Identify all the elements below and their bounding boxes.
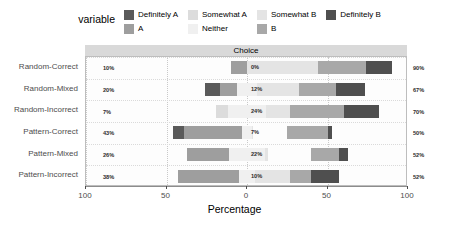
x-tick-label: 50 <box>161 191 170 200</box>
bar-row: 22% <box>86 144 406 166</box>
y-axis-label: Random-Incorrect <box>14 105 78 115</box>
center-percent-label: 24% <box>251 105 262 118</box>
bar-segment[interactable] <box>257 83 299 96</box>
left-percent-label: 7% <box>103 107 111 117</box>
bar-segment[interactable] <box>311 170 338 183</box>
bar-segment[interactable] <box>216 105 227 118</box>
bar-segment[interactable] <box>344 105 379 118</box>
plot-panel: 0%12%24%7%22%10% <box>85 56 407 186</box>
facet-strip: Choice <box>85 45 407 56</box>
legend-label: Somewhat A <box>202 10 247 20</box>
bar-segment[interactable] <box>173 126 184 139</box>
left-percent-label: 20% <box>103 85 114 95</box>
legend-label: Definitely A <box>138 10 178 20</box>
legend-title: variable <box>78 13 115 25</box>
right-percent-label: 50% <box>413 128 424 138</box>
bar-row: 10% <box>86 165 406 186</box>
bar-segment[interactable] <box>187 148 229 161</box>
right-percent-label: 52% <box>413 150 424 160</box>
chart-root: variable Definitely AASomewhat ANeitherS… <box>0 0 469 226</box>
x-tick-mark <box>407 186 408 189</box>
center-percent-label: 22% <box>251 148 262 161</box>
bar-segment[interactable] <box>366 61 392 74</box>
x-axis-title: Percentage <box>0 203 469 215</box>
x-tick-mark <box>327 186 328 189</box>
right-percent-label: 90% <box>413 63 424 73</box>
legend-column: Somewhat BB <box>257 8 316 36</box>
bar-segment[interactable] <box>178 170 239 183</box>
bar-segment[interactable] <box>311 148 338 161</box>
bar-segment[interactable] <box>290 170 311 183</box>
legend-column: Somewhat ANeither <box>188 8 247 36</box>
legend-swatch-icon <box>188 10 198 20</box>
right-percent-label: 70% <box>413 107 424 117</box>
bar-row: 12% <box>86 79 406 101</box>
x-tick-mark <box>166 186 167 189</box>
bar-segment[interactable] <box>220 83 238 96</box>
y-axis-label: Random-Mixed <box>24 84 78 94</box>
y-axis-label: Random-Correct <box>19 62 78 72</box>
bar-segment[interactable] <box>184 126 242 139</box>
legend-label: Neither <box>202 24 228 34</box>
center-percent-label: 0% <box>251 61 259 74</box>
facet-panel-wrap: Choice 0%12%24%7%22%10% <box>85 45 407 186</box>
right-percent-label: 67% <box>413 85 424 95</box>
legend-key-a[interactable]: A <box>124 22 178 35</box>
legend-swatch-icon <box>124 24 134 34</box>
legend-key-b[interactable]: B <box>257 22 316 35</box>
legend-swatch-icon <box>257 10 267 20</box>
legend-key-somewhat-b[interactable]: Somewhat B <box>257 8 316 21</box>
chart-legend: variable Definitely AASomewhat ANeitherS… <box>0 8 469 42</box>
bar-segment[interactable] <box>205 83 219 96</box>
bar-segment[interactable] <box>336 83 365 96</box>
legend-label: Definitely B <box>340 10 380 20</box>
bar-row: 24% <box>86 100 406 122</box>
x-tick-label: 0 <box>244 191 248 200</box>
legend-label: A <box>138 24 143 34</box>
bar-segment[interactable] <box>287 126 327 139</box>
y-axis-labels: Random-CorrectRandom-MixedRandom-Incorre… <box>0 56 82 186</box>
x-tick-mark <box>246 186 247 189</box>
y-axis-label: Pattern-Incorrect <box>18 170 78 180</box>
legend-key-neither[interactable]: Neither <box>188 22 247 35</box>
center-percent-label: 12% <box>251 83 262 96</box>
left-percent-label: 10% <box>103 63 114 73</box>
legend-key-somewhat-a[interactable]: Somewhat A <box>188 8 247 21</box>
bar-segment[interactable] <box>318 61 366 74</box>
x-tick-label: 100 <box>400 191 413 200</box>
legend-key-definitely-a[interactable]: Definitely A <box>124 8 178 21</box>
bar-segment[interactable] <box>266 105 290 118</box>
y-axis-label: Pattern-Mixed <box>28 149 78 159</box>
legend-key-empty <box>326 22 380 35</box>
bar-row: 7% <box>86 122 406 144</box>
legend-key-definitely-b[interactable]: Definitely B <box>326 8 380 21</box>
legend-label: B <box>271 24 276 34</box>
legend-swatch-icon <box>124 10 134 20</box>
bar-segment[interactable] <box>299 83 336 96</box>
center-percent-label: 10% <box>251 170 262 183</box>
legend-columns: Definitely AASomewhat ANeitherSomewhat B… <box>124 8 391 36</box>
x-tick-label: 100 <box>78 191 91 200</box>
x-tick-label: 50 <box>322 191 331 200</box>
legend-swatch-icon <box>257 24 267 34</box>
legend-swatch-icon <box>188 24 198 34</box>
legend-label: Somewhat B <box>271 10 316 20</box>
right-percent-label: 52% <box>413 172 424 182</box>
facet-strip-label: Choice <box>234 47 259 55</box>
bar-segment[interactable] <box>328 126 333 139</box>
left-percent-label: 38% <box>103 172 114 182</box>
legend-swatch-icon <box>326 10 336 20</box>
x-tick-mark <box>85 186 86 189</box>
bar-segment[interactable] <box>290 105 343 118</box>
x-axis-ticks: 10050050100 <box>85 186 407 202</box>
center-percent-label: 7% <box>251 126 259 139</box>
bar-segment[interactable] <box>339 148 349 161</box>
legend-column: Definitely B <box>326 8 380 36</box>
bar-segment[interactable] <box>231 61 247 74</box>
bar-row: 0% <box>86 57 406 79</box>
legend-swatch-placeholder <box>326 24 336 34</box>
left-percent-label: 26% <box>103 150 114 160</box>
legend-column: Definitely AA <box>124 8 178 36</box>
left-percent-label: 43% <box>103 128 114 138</box>
bar-segment[interactable] <box>265 148 268 161</box>
